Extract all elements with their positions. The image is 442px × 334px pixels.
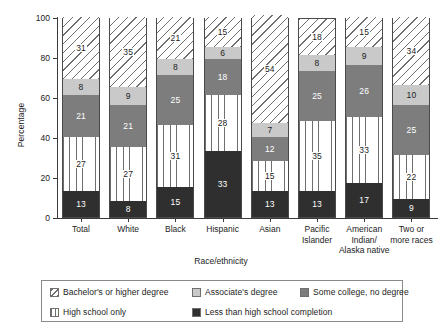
segment-value-label: 7: [267, 126, 272, 135]
segment-somecollege[interactable]: 25: [393, 105, 429, 155]
segment-somecollege[interactable]: 25: [299, 71, 335, 121]
segment-value-label: 21: [170, 34, 182, 43]
segment-lessthanhs[interactable]: 13: [252, 191, 288, 217]
legend-swatch-lessthanhs-icon: [192, 308, 201, 317]
segment-lessthanhs[interactable]: 9: [393, 199, 429, 217]
bar-pacific-islander[interactable]: 133525818: [298, 18, 336, 218]
x-axis-label-line: Alaska native: [332, 245, 396, 256]
legend-label: Some college, no degree: [313, 287, 409, 297]
segment-associate[interactable]: 7: [252, 123, 288, 137]
x-axis-tick: [81, 218, 82, 222]
x-axis-tick: [411, 218, 412, 222]
segment-bachelor[interactable]: 31: [63, 17, 99, 79]
legend-swatch-associate-icon: [192, 288, 201, 297]
segment-value-label: 15: [264, 172, 276, 181]
segment-value-label: 34: [406, 47, 418, 56]
legend-item-highschool[interactable]: High school only: [50, 302, 126, 322]
legend: Bachelor's or higher degreeAssociate's d…: [41, 280, 403, 322]
x-axis-label-line: Two or: [379, 224, 442, 235]
segment-somecollege[interactable]: 21: [63, 95, 99, 137]
segment-value-label: 9: [126, 92, 131, 101]
segment-value-label: 12: [265, 145, 275, 154]
segment-highschool[interactable]: 28: [205, 95, 241, 151]
legend-label: Less than high school completion: [205, 307, 332, 317]
segment-lessthanhs[interactable]: 13: [63, 191, 99, 217]
segment-value-label: 21: [123, 122, 133, 131]
segment-somecollege[interactable]: 12: [252, 137, 288, 161]
bar-total[interactable]: 132721831: [62, 18, 100, 218]
segment-value-label: 6: [220, 49, 225, 58]
segment-somecollege[interactable]: 25: [157, 75, 193, 125]
segment-bachelor[interactable]: 35: [110, 17, 146, 87]
segment-value-label: 28: [217, 119, 229, 128]
segment-divider: [299, 18, 335, 19]
x-axis-tick: [364, 218, 365, 222]
segment-associate[interactable]: 9: [346, 47, 382, 65]
segment-value-label: 15: [358, 28, 370, 37]
segment-associate[interactable]: 8: [157, 59, 193, 75]
segment-highschool[interactable]: 22: [393, 155, 429, 199]
segment-value-label: 27: [122, 170, 134, 179]
segment-value-label: 13: [265, 200, 275, 209]
bar-black[interactable]: 153125821: [156, 18, 194, 218]
segment-somecollege[interactable]: 26: [346, 65, 382, 117]
segment-bachelor[interactable]: 54: [252, 15, 288, 123]
segment-highschool[interactable]: 15: [252, 161, 288, 191]
segment-value-label: 21: [76, 112, 86, 121]
segment-value-label: 26: [359, 87, 369, 96]
segment-highschool[interactable]: 33: [346, 117, 382, 183]
bar-white[interactable]: 82721935: [109, 18, 147, 218]
legend-item-bachelor[interactable]: Bachelor's or higher degree: [50, 282, 169, 302]
segment-associate[interactable]: 8: [299, 55, 335, 71]
bar-american-indian-alaska-native[interactable]: 173326915: [345, 18, 383, 218]
segment-associate[interactable]: 10: [393, 85, 429, 105]
segment-lessthanhs[interactable]: 15: [157, 187, 193, 217]
segment-bachelor[interactable]: 15: [205, 17, 241, 47]
segment-somecollege[interactable]: 18: [205, 59, 241, 95]
segment-highschool[interactable]: 35: [299, 121, 335, 191]
x-axis-label-line: more races: [379, 235, 442, 246]
segment-value-label: 9: [362, 52, 367, 61]
x-axis-label: Two ormore races: [379, 224, 442, 245]
legend-item-somecollege[interactable]: Some college, no degree: [300, 282, 409, 302]
segment-bachelor[interactable]: 18: [299, 19, 335, 55]
segment-value-label: 8: [315, 59, 320, 68]
segment-lessthanhs[interactable]: 8: [110, 201, 146, 217]
segment-value-label: 35: [311, 152, 323, 161]
segment-value-label: 13: [312, 200, 322, 209]
segment-somecollege[interactable]: 21: [110, 105, 146, 147]
segment-value-label: 31: [75, 44, 87, 53]
segment-value-label: 31: [170, 152, 182, 161]
segment-bachelor[interactable]: 21: [157, 17, 193, 59]
segment-value-label: 54: [264, 65, 276, 74]
x-axis-tick: [175, 218, 176, 222]
segment-lessthanhs[interactable]: 33: [205, 151, 241, 217]
segment-value-label: 25: [312, 92, 322, 101]
segment-associate[interactable]: 8: [63, 79, 99, 95]
segment-lessthanhs[interactable]: 13: [299, 191, 335, 217]
segment-highschool[interactable]: 31: [157, 125, 193, 187]
legend-item-lessthanhs[interactable]: Less than high school completion: [192, 302, 332, 322]
legend-label: Bachelor's or higher degree: [63, 287, 169, 297]
legend-label: High school only: [63, 307, 126, 317]
bar-asian[interactable]: 131512754: [251, 18, 289, 218]
segment-associate[interactable]: 6: [205, 47, 241, 59]
legend-row: Bachelor's or higher degreeAssociate's d…: [42, 282, 402, 302]
segment-highschool[interactable]: 27: [63, 137, 99, 191]
bar-two-or-more-races[interactable]: 922251034: [392, 18, 430, 218]
segment-bachelor[interactable]: 15: [346, 17, 382, 47]
segment-value-label: 13: [76, 200, 86, 209]
segment-associate[interactable]: 9: [110, 87, 146, 105]
segment-bachelor[interactable]: 34: [393, 17, 429, 85]
bar-hispanic[interactable]: 332818615: [204, 18, 242, 218]
x-axis-tick: [317, 218, 318, 222]
segment-value-label: 9: [409, 204, 414, 213]
segment-value-label: 18: [311, 33, 323, 42]
segment-value-label: 10: [407, 91, 417, 100]
segment-lessthanhs[interactable]: 17: [346, 183, 382, 217]
stacked-bar-chart: Percentage 020406080100 1327218318272193…: [0, 0, 442, 334]
segment-value-label: 17: [359, 196, 369, 205]
x-axis-title: Race/ethnicity: [0, 256, 442, 266]
segment-highschool[interactable]: 27: [110, 147, 146, 201]
legend-item-associate[interactable]: Associate's degree: [192, 282, 277, 302]
